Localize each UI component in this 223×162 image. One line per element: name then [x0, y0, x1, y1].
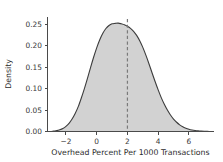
x-axis-title: Overhead Percent Per 1000 Transactions	[51, 148, 209, 157]
x-tick-label: 6	[187, 137, 192, 146]
y-tick-label: 0.10	[26, 84, 43, 93]
y-axis-title: Density	[4, 59, 13, 89]
y-tick-label: 0.15	[26, 63, 43, 72]
x-tick-label: −2	[60, 137, 71, 146]
x-tick-label: 4	[156, 137, 161, 146]
density-plot-figure: −20246 0.000.050.100.150.200.25 Overhead…	[0, 0, 223, 162]
x-tick-label: 0	[94, 137, 99, 146]
y-tick-label: 0.00	[26, 127, 43, 136]
y-tick-label: 0.05	[26, 106, 43, 115]
chart-canvas: −20246 0.000.050.100.150.200.25 Overhead…	[0, 0, 223, 162]
y-tick-label: 0.20	[26, 41, 43, 50]
x-tick-label: 2	[125, 137, 130, 146]
y-tick-label: 0.25	[26, 20, 43, 29]
